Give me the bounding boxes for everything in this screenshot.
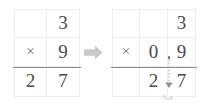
grid-cell: 3 — [168, 9, 196, 38]
decimal-carry-arrow-icon — [163, 54, 175, 96]
cell-value: 2 — [26, 71, 36, 90]
grid-cell — [14, 9, 47, 38]
pencil-smudge — [169, 96, 173, 101]
grid-cell — [140, 9, 168, 38]
grid-cell: 9 — [47, 38, 80, 67]
cell-value: 7 — [177, 71, 187, 90]
decimal-multiplication-grid: 3 × 0 9 2 7 — [112, 9, 196, 97]
cell-value: 2 — [149, 71, 159, 90]
multiplication-sign-icon: × — [26, 44, 34, 59]
grid-cell: 2 — [14, 67, 47, 97]
answer-rule — [13, 67, 81, 68]
cell-value: 9 — [58, 42, 68, 61]
cell-value: 3 — [177, 13, 187, 32]
answer-rule — [111, 67, 197, 68]
transform-arrow — [84, 45, 103, 60]
grid-cell — [112, 67, 140, 97]
multiplication-operator-cell: × — [112, 38, 140, 67]
whole-number-multiplication-grid: 3 × 9 2 7 — [14, 9, 80, 97]
pencil-smudge — [166, 98, 170, 100]
cell-value: 0 — [149, 42, 159, 61]
multiplication-operator-cell: × — [14, 38, 47, 67]
cell-value: 9 — [177, 42, 187, 61]
figure-canvas: 3 × 9 2 7 3 × — [0, 0, 204, 107]
multiplication-sign-icon: × — [122, 44, 130, 59]
cell-value: 7 — [58, 71, 68, 90]
grid-cell: 3 — [47, 9, 80, 38]
grid-cell — [112, 9, 140, 38]
cell-value: 3 — [58, 13, 68, 32]
grid-cell: 7 — [47, 67, 80, 97]
